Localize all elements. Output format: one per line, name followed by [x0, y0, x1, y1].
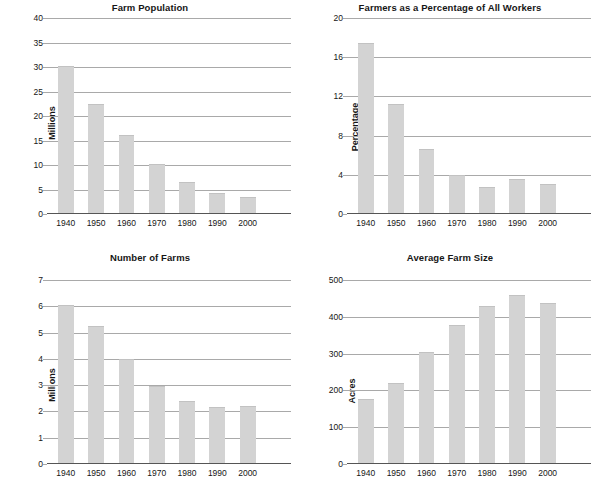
y-tick-label: 12 [334, 91, 343, 101]
y-tick-label: 16 [334, 52, 343, 62]
bar-series [347, 280, 591, 463]
chart-title: Farm Population [0, 2, 300, 13]
x-tick-label: 1990 [508, 468, 527, 478]
x-tick-label: 2000 [238, 218, 257, 228]
y-tick-label: 35 [34, 38, 43, 48]
y-tick-label: 0 [38, 459, 43, 469]
x-tick-label: 2000 [538, 218, 557, 228]
x-tick-label: 1940 [56, 468, 75, 478]
x-tick-label: 1960 [117, 218, 136, 228]
y-tick-label: 100 [329, 422, 343, 432]
x-tick-label: 1940 [56, 218, 75, 228]
x-tick-label: 1960 [117, 468, 136, 478]
x-tick-label: 1980 [478, 468, 497, 478]
y-tick-label: 20 [334, 13, 343, 23]
y-tick-label: 200 [329, 385, 343, 395]
plot-area: Millions 0123456719401950196019701980199… [47, 280, 291, 464]
x-tick-label: 1970 [147, 468, 166, 478]
bar [540, 303, 556, 463]
x-tick-label: 1940 [356, 218, 375, 228]
bar [419, 352, 435, 463]
x-tick-label: 1970 [147, 218, 166, 228]
chart-title: Farmers as a Percentage of All Workers [300, 2, 600, 13]
chart-title: Number of Farms [0, 252, 300, 263]
x-tick-label: 2000 [538, 468, 557, 478]
y-tick-label: 7 [38, 275, 43, 285]
chart-panel-farm-population: Farm Population Millions 051015202530354… [0, 0, 300, 250]
x-axis-line [47, 463, 291, 464]
bar [358, 399, 374, 463]
bar [419, 149, 435, 213]
x-tick-label: 1960 [417, 218, 436, 228]
bar [209, 193, 225, 213]
x-tick-label: 1950 [387, 218, 406, 228]
bar [479, 306, 495, 463]
x-tick-label: 1980 [178, 218, 197, 228]
bar [240, 197, 256, 213]
bar [179, 182, 195, 213]
y-tick-label: 0 [338, 459, 343, 469]
bar-series [347, 18, 591, 213]
y-tick-label: 1 [38, 433, 43, 443]
bar-series [47, 18, 291, 213]
x-tick-label: 1950 [387, 468, 406, 478]
bar [58, 66, 74, 213]
y-tick-mark [43, 464, 47, 465]
bar [388, 383, 404, 463]
bar [449, 325, 465, 463]
y-tick-label: 400 [329, 312, 343, 322]
x-axis-line [347, 463, 591, 464]
x-axis-line [347, 213, 591, 214]
y-tick-label: 0 [38, 209, 43, 219]
plot-area: Millions 0510152025303540194019501960197… [47, 18, 291, 214]
y-tick-mark [343, 464, 347, 465]
chart-panel-number-of-farms: Number of Farms Millions 012345671940195… [0, 250, 300, 500]
y-tick-label: 30 [34, 62, 43, 72]
y-tick-label: 5 [38, 328, 43, 338]
bar [388, 104, 404, 213]
y-tick-label: 500 [329, 275, 343, 285]
x-tick-label: 1990 [208, 218, 227, 228]
x-tick-label: 1980 [478, 218, 497, 228]
x-tick-label: 1990 [508, 218, 527, 228]
x-tick-label: 1980 [178, 468, 197, 478]
y-tick-mark [343, 214, 347, 215]
y-tick-label: 20 [34, 111, 43, 121]
y-tick-label: 5 [38, 185, 43, 195]
y-tick-mark [43, 214, 47, 215]
x-tick-label: 1970 [447, 218, 466, 228]
bar [240, 406, 256, 463]
bar-series [47, 280, 291, 463]
x-tick-label: 1950 [87, 468, 106, 478]
y-tick-label: 4 [38, 354, 43, 364]
bar [58, 305, 74, 463]
y-tick-label: 4 [338, 170, 343, 180]
bar [119, 135, 135, 213]
y-tick-label: 10 [34, 160, 43, 170]
bar [509, 179, 525, 213]
y-tick-label: 6 [38, 301, 43, 311]
bar [88, 326, 104, 463]
bar [149, 164, 165, 213]
chart-panel-farmers-percentage: Farmers as a Percentage of All Workers P… [300, 0, 600, 250]
x-axis-line [47, 213, 291, 214]
y-tick-label: 3 [38, 380, 43, 390]
bar [119, 359, 135, 463]
y-tick-label: 15 [34, 136, 43, 146]
x-tick-label: 1970 [447, 468, 466, 478]
bar [540, 184, 556, 213]
x-tick-label: 1950 [87, 218, 106, 228]
bar [179, 401, 195, 463]
y-tick-label: 300 [329, 349, 343, 359]
x-tick-label: 2000 [238, 468, 257, 478]
bar [209, 407, 225, 463]
bar [509, 295, 525, 463]
bar [449, 175, 465, 213]
y-tick-label: 40 [34, 13, 43, 23]
plot-area: Percentage 04812162019401950196019701980… [347, 18, 591, 214]
x-tick-label: 1940 [356, 468, 375, 478]
bar [149, 386, 165, 463]
plot-area: Acres 0100200300400500194019501960197019… [347, 280, 591, 464]
chart-panel-average-farm-size: Average Farm Size Acres 0100200300400500… [300, 250, 600, 500]
figure-grid: Farm Population Millions 051015202530354… [0, 0, 600, 500]
